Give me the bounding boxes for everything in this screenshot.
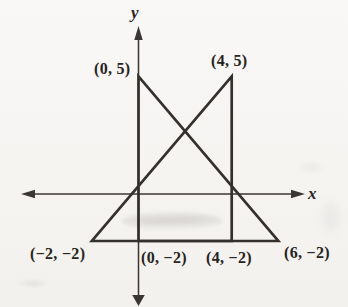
point-label-4-5: (4, 5) — [211, 52, 247, 70]
y-axis-label: y — [131, 4, 139, 22]
triangles — [92, 77, 278, 242]
point-label-4-neg2: (4, −2) — [206, 249, 252, 267]
point-label-neg2-neg2: (−2, −2) — [30, 245, 85, 263]
x-axis-left-arrowhead-icon — [21, 190, 35, 198]
x-axis-label: x — [308, 185, 317, 203]
y-axis-top-arrowhead-icon — [134, 26, 142, 40]
coordinate-plane-figure: (0, 5) (4, 5) (−2, −2) (0, −2) (4, −2) (… — [0, 0, 348, 307]
x-axis-right-arrowhead-icon — [291, 190, 305, 198]
point-label-6-neg2: (6, −2) — [284, 244, 330, 262]
point-label-0-5: (0, 5) — [94, 60, 130, 78]
point-label-0-neg2: (0, −2) — [141, 249, 187, 267]
y-axis-bottom-arrowhead-icon — [132, 295, 145, 306]
triangle-apex-4-5 — [92, 77, 232, 242]
triangle-apex-0-5 — [139, 77, 279, 242]
